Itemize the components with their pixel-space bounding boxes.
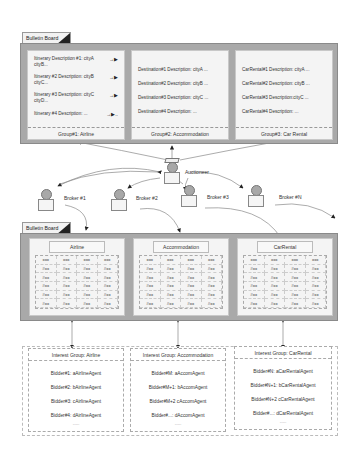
table-cell: #xx <box>265 299 286 308</box>
table-cell: #xx <box>285 291 306 300</box>
table-cell: xxx <box>285 256 306 265</box>
table-cell: #xx <box>98 282 119 291</box>
table-cell: #xx <box>202 291 223 300</box>
table-cell: #xx <box>202 273 223 282</box>
bidder-entry: Bidder#1: aAirlineAgent <box>29 371 123 376</box>
itinerary-line: cityB... <box>34 62 120 68</box>
person-body-icon <box>181 195 197 207</box>
table-cell: #xx <box>265 273 286 282</box>
destination-line: Destination#1 Description: cityA ... <box>138 67 224 73</box>
table-cell: #xx <box>161 291 182 300</box>
table-cell: #xx <box>285 299 306 308</box>
interest-group-airline: Interest Group: Airline Bidder#1: aAirli… <box>28 348 124 432</box>
table-panel-car-rental: CarRental xxxxxxxxxxxx#xx#xx#xx#xx#xx#xx… <box>237 238 333 316</box>
broker-3-label: Broker #3 <box>207 194 229 200</box>
table-cell: #xx <box>140 273 161 282</box>
table-panel-accommodation: Accommodation xxxxxxxxxxxx#xx#xx#xx#xx#x… <box>133 238 229 316</box>
table-cell: #xx <box>140 265 161 274</box>
itinerary-line: cityC... <box>34 80 120 86</box>
table-cell: #xx <box>306 291 327 300</box>
table-cell: #xx <box>306 273 327 282</box>
table-cell: #xx <box>181 291 202 300</box>
table-cell: #xx <box>306 265 327 274</box>
table-cell: xxx <box>202 256 223 265</box>
bulletin-board-label: Bulletin Board <box>26 35 58 41</box>
bulletin-board-top: Itinerary Description #1: cityA cityB...… <box>20 43 338 144</box>
bulletin-board-bottom: Airline xxxxxxxxxxxx#xx#xx#xx#xx#xx#xx#x… <box>20 233 338 321</box>
table-cell: #xx <box>161 282 182 291</box>
table-cell: xxx <box>36 256 57 265</box>
bidder-entry: Bidder#N+2 cCarRentalAgent <box>235 397 331 402</box>
table-cell: #xx <box>181 273 202 282</box>
itinerary-line: Itinerary #3 Description: cityC <box>34 92 120 98</box>
broker-n-label: Broker #N <box>279 194 302 200</box>
table-cell: xxx <box>57 256 78 265</box>
bidder-entry: Bidder#N+1: bCarRentalAgent <box>235 383 331 388</box>
person-body-icon <box>248 195 264 207</box>
table-cell: #xx <box>202 299 223 308</box>
table-cell: #xx <box>77 299 98 308</box>
table-cell: #xx <box>161 265 182 274</box>
table-cell: xxx <box>306 256 327 265</box>
table-cell: #xx <box>161 273 182 282</box>
group-panel-airline: Itinerary Description #1: cityA cityB...… <box>27 50 125 140</box>
table-cell: #xx <box>140 299 161 308</box>
itinerary-line: Itinerary #2 Description: cityB <box>34 74 120 80</box>
car-rental-line: CarRental#4 Description: ... <box>242 109 328 115</box>
bid-table: xxxxxxxxxxxx#xx#xx#xx#xx#xx#xx#xx#xx#xx#… <box>35 255 119 309</box>
table-cell: #xx <box>57 265 78 274</box>
destination-line: Destination#2 Description: cityB ... <box>138 81 224 87</box>
table-cell: #xx <box>98 265 119 274</box>
group-panel-car-rental: CarRental#1 Description: cityA ... CarRe… <box>235 50 333 140</box>
table-cell: xxx <box>98 256 119 265</box>
arrow-right-icon: →▶.. <box>106 111 118 117</box>
group-footer: Group#3: Car Rental <box>236 127 332 139</box>
more-indicator: ...... <box>131 421 225 426</box>
table-cell: xxx <box>77 256 98 265</box>
bidder-entry: Bidder#4: dAirlineAgent <box>29 413 123 418</box>
table-cell: #xx <box>244 282 265 291</box>
table-cell: #xx <box>202 282 223 291</box>
table-cell: #xx <box>140 291 161 300</box>
table-cell: #xx <box>36 282 57 291</box>
bidder-entry: Bidder#N: aCarRentalAgent <box>235 369 331 374</box>
table-cell: #xx <box>285 265 306 274</box>
itinerary-line: Itinerary Description #1: cityA <box>34 56 120 62</box>
table-cell: #xx <box>77 265 98 274</box>
bidder-entry: Bidder#2: bAirlineAgent <box>29 385 123 390</box>
bidder-entry: Bidder#...: dCarRentalAgent <box>235 411 331 416</box>
bid-table: xxxxxxxxxxxx#xx#xx#xx#xx#xx#xx#xx#xx#xx#… <box>139 255 223 309</box>
table-cell: #xx <box>77 273 98 282</box>
group-panel-accommodation: Destination#1 Description: cityA ... Des… <box>131 50 229 140</box>
table-cell: #xx <box>265 265 286 274</box>
table-cell: #xx <box>57 282 78 291</box>
table-cell: #xx <box>57 299 78 308</box>
table-cell: xxx <box>244 256 265 265</box>
table-cell: #xx <box>98 273 119 282</box>
interest-group-car-rental: Interest Group: CarRental Bidder#N: aCar… <box>234 346 332 430</box>
interest-group-title: Interest Group: Accommodation <box>131 349 225 361</box>
table-title: Airline <box>49 241 105 253</box>
bidder-entry: Bidder#M+1: bAccomAgent <box>131 385 225 390</box>
destination-line: Destination#3 Description: cityC ... <box>138 95 224 101</box>
car-rental-line: CarRental#3 Description:cityC ... <box>242 95 328 101</box>
car-rental-line: CarRental#1 Description: cityA ... <box>242 67 328 73</box>
table-cell: #xx <box>202 265 223 274</box>
person-body-icon <box>111 199 127 211</box>
bidder-entry: Bidder#M: aAccomAgent <box>131 371 225 376</box>
table-cell: #xx <box>98 299 119 308</box>
bidder-entry: Bidder#3: cAirlineAgent <box>29 399 123 404</box>
bid-table: xxxxxxxxxxxx#xx#xx#xx#xx#xx#xx#xx#xx#xx#… <box>243 255 327 309</box>
bidder-entry: Bidder#...: dAccomAgent <box>131 413 225 418</box>
interest-group-title: Interest Group: CarRental <box>235 347 331 359</box>
table-cell: #xx <box>181 282 202 291</box>
person-body-icon <box>164 172 180 184</box>
bulletin-board-label: Bulletin Board <box>26 225 58 231</box>
table-title: CarRental <box>257 241 313 253</box>
car-rental-line: CarRental#2 Description: cityB ... <box>242 81 328 87</box>
table-cell: #xx <box>265 291 286 300</box>
table-cell: #xx <box>244 265 265 274</box>
interest-group-accommodation: Interest Group: Accommodation Bidder#M: … <box>130 348 226 432</box>
table-cell: #xx <box>285 282 306 291</box>
table-cell: #xx <box>36 265 57 274</box>
